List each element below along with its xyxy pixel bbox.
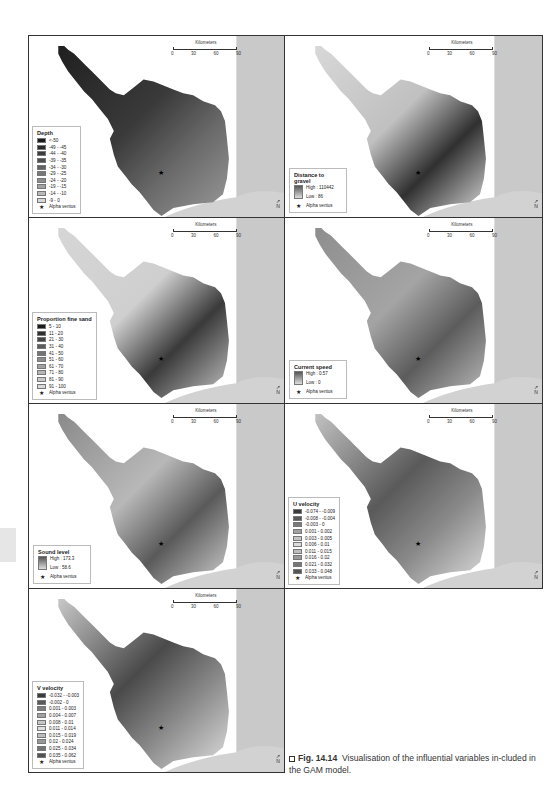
- legend-class: -0.032 - -0.003: [37, 692, 79, 699]
- legend-class: 21 - 30: [37, 337, 92, 344]
- legend-marker: ★ Alpha ventus: [37, 203, 76, 210]
- legend-ramp: High : 0.57Low : 0: [294, 371, 342, 385]
- legend-class-label: 0.006 - 0.01: [305, 542, 330, 547]
- north-arrow-icon: ↗N: [534, 199, 538, 209]
- legend-title: Sound level: [38, 549, 86, 555]
- legend-class-label: 0.025 - 0.034: [49, 746, 76, 751]
- legend-class-label: 51 - 60: [49, 357, 63, 362]
- legend-class: 0.015 - 0.019: [37, 732, 79, 739]
- star-icon: ★: [37, 203, 46, 210]
- scale-bar-line: [173, 47, 237, 50]
- map-panel-distance-to-gravel: ★ Kilometers 0 30 60 90 ↗N Distance to g…: [284, 35, 543, 218]
- legend-class: -29 - -25: [37, 170, 76, 177]
- legend-low: Low : 58.6: [50, 565, 74, 570]
- scale-tick: 0: [427, 51, 430, 56]
- legend-swatch: [293, 555, 302, 560]
- scale-tick: 30: [191, 419, 196, 424]
- scale-bar-line: [429, 415, 493, 418]
- legend-class-label: -49 - -45: [49, 145, 66, 150]
- scale-tick: 0: [171, 233, 174, 238]
- scale-bar-title: Kilometers: [171, 222, 241, 227]
- legend-marker-label: Alpha ventus: [49, 204, 76, 209]
- legend-swatch: [37, 384, 46, 389]
- legend-class: 0.006 - 0.01: [293, 541, 335, 548]
- scale-tick: 30: [191, 51, 196, 56]
- legend-swatch: [37, 726, 46, 731]
- legend-gradient-swatch: [294, 371, 303, 385]
- legend-class: -0.008 - -0.004: [293, 515, 335, 522]
- scale-tick: 60: [213, 51, 218, 56]
- map-panel-proportion-fine-sand: ★ Kilometers 0 30 60 90 ↗N Proportion fi…: [28, 217, 285, 404]
- map-panel-current-speed: ★ Kilometers 0 30 60 90 ↗N Current speed…: [284, 217, 543, 404]
- legend-class: 0.025 - 0.034: [37, 745, 79, 752]
- scale-bar-line: [173, 600, 237, 603]
- scale-tick: 90: [236, 233, 241, 238]
- scale-tick: 90: [236, 604, 241, 609]
- scale-bar: Kilometers 0 30 60 90: [171, 40, 241, 58]
- legend-swatch: [37, 138, 46, 143]
- legend-ramp: High : 110442Low : 86: [294, 185, 342, 199]
- legend-swatch: [293, 549, 302, 554]
- scale-bar: Kilometers 0 30 60 90: [171, 408, 241, 426]
- legend-class: -24 - -20: [37, 177, 76, 184]
- scale-tick: 0: [171, 604, 174, 609]
- legend-swatch: [37, 158, 46, 163]
- legend-swatch: [37, 171, 46, 176]
- svg-text:★: ★: [158, 540, 164, 547]
- svg-text:★: ★: [158, 169, 164, 176]
- legend-class-label: -9 - 0: [49, 198, 60, 203]
- legend-marker: ★ Alpha ventus: [37, 758, 79, 765]
- scale-bar: Kilometers 0 30 60 90: [171, 222, 241, 240]
- legend-marker-label: Alpha ventus: [49, 390, 76, 395]
- scale-bar: Kilometers 0 30 60 90: [171, 593, 241, 611]
- legend-class-label: -0.003 - 0: [305, 522, 325, 527]
- scale-bar: Kilometers 0 30 60 90: [427, 40, 497, 58]
- legend-class-label: -44 - -40: [49, 151, 66, 156]
- legend-class: 0.016 - 0.02: [293, 555, 335, 562]
- legend-class-label: -0.008 - -0.004: [305, 516, 335, 521]
- legend-class: 11 - 20: [37, 330, 92, 337]
- legend-class: 5 - 10: [37, 323, 92, 330]
- star-icon: ★: [37, 758, 46, 765]
- legend-title: Proportion fine sand: [37, 316, 92, 322]
- legend-high: High : 0.57: [306, 371, 328, 376]
- scale-tick: 30: [447, 419, 452, 424]
- legend-class: 0.011 - 0.015: [293, 548, 335, 555]
- legend-class: -39 - -35: [37, 157, 76, 164]
- legend-class-label: 0.033 - 0.048: [305, 569, 332, 574]
- north-arrow-icon: ↗N: [534, 385, 538, 395]
- legend-high: High : 110442: [306, 185, 334, 190]
- scale-bar-line: [429, 229, 493, 232]
- svg-text:★: ★: [158, 724, 164, 731]
- legend-class: 0.001 - 0.002: [293, 528, 335, 535]
- scale-bar-title: Kilometers: [171, 408, 241, 413]
- legend-class-label: -29 - -25: [49, 171, 66, 176]
- legend-class: 41 - 50: [37, 350, 92, 357]
- scale-tick: 90: [492, 51, 497, 56]
- legend-swatch: [37, 739, 46, 744]
- legend-class-label: 21 - 30: [49, 337, 63, 342]
- svg-text:★: ★: [158, 355, 164, 362]
- legend-class: -34 - -30: [37, 164, 76, 171]
- legend-marker-label: Alpha ventus: [305, 575, 332, 580]
- legend-swatch: [37, 706, 46, 711]
- map-panel-depth: ★ Kilometers 0 30 60 90 ↗N Depth <-50 -4…: [28, 35, 285, 218]
- legend-ramp: High : 173.3Low : 58.6: [38, 556, 86, 570]
- scale-bar-title: Kilometers: [427, 222, 497, 227]
- scale-bar-title: Kilometers: [171, 593, 241, 598]
- scale-tick: 90: [236, 51, 241, 56]
- legend-class-label: 0.035 - 0.062: [49, 753, 76, 758]
- figure-label: Fig. 14.14: [298, 753, 337, 763]
- scale-tick: 60: [213, 233, 218, 238]
- legend-class: 51 - 60: [37, 356, 92, 363]
- scale-bar: Kilometers 0 30 60 90: [427, 222, 497, 240]
- scale-tick: 60: [213, 604, 218, 609]
- legend-marker-label: Alpha ventus: [50, 574, 77, 579]
- legend-class: 0.003 - 0.005: [293, 535, 335, 542]
- legend-swatch: [37, 746, 46, 751]
- legend-swatch: [293, 542, 302, 547]
- star-icon: ★: [37, 389, 46, 396]
- scale-bar: Kilometers 0 30 60 90: [427, 408, 497, 426]
- north-arrow-icon: ↗N: [276, 570, 280, 580]
- legend-class: 0.008 - 0.01: [37, 719, 79, 726]
